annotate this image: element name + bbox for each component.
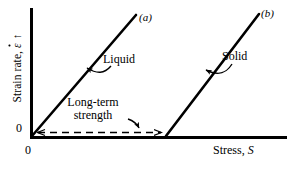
x-axis-title: Stress, S (213, 144, 254, 157)
liquid-annotation-label: Liquid (103, 53, 135, 66)
x-axis-zero-tick-label: 0 (25, 144, 31, 157)
y-axis-title-text: Strain rate, (11, 48, 23, 103)
x-axis-title-text: Stress, (213, 143, 248, 157)
curve-a-label: (a) (139, 12, 152, 24)
solid-annotation-label: Solid (222, 50, 247, 63)
longterm-strength-line2: strength (54, 109, 132, 122)
strain-rate-symbol: ε (11, 42, 23, 48)
y-axis-arrow-icon: ↑ (11, 33, 23, 39)
longterm-strength-line1: Long-term (67, 95, 118, 109)
curve-b-label: (b) (261, 8, 274, 20)
curve-b-solid (166, 14, 259, 136)
longterm-strength-annotation-label: Long-termstrength (54, 96, 132, 121)
y-axis-title: Strain rate, ε ↑ (11, 11, 23, 126)
stress-symbol: S (248, 143, 254, 157)
y-axis-zero-tick-label: 0 (16, 122, 22, 135)
figure-strain-rate-vs-stress: Strain rate, ε ↑ Stress, S 0 0 (a) (b) L… (0, 0, 291, 169)
